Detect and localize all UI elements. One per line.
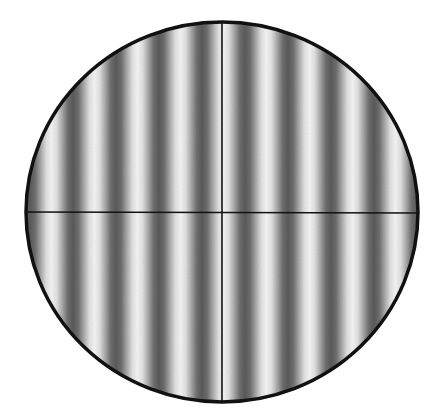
crosshair-horizontal-line [27,212,417,213]
interference-diagram [0,0,445,417]
